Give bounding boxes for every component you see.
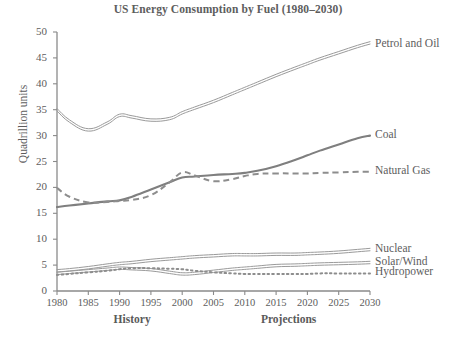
x-tick-2020: 2020 (290, 297, 324, 308)
y-tick-40: 40 (25, 77, 47, 89)
x-tick-2005: 2005 (197, 297, 231, 308)
series-label-coal: Coal (375, 128, 397, 140)
x-tick-1990: 1990 (103, 297, 137, 308)
x-tick-1980: 1980 (40, 297, 74, 308)
period-label-history: History (77, 313, 187, 325)
y-tick-30: 30 (25, 129, 47, 141)
x-tick-2030: 2030 (353, 297, 387, 308)
series-petrol-and-oil (57, 42, 370, 131)
series-label-natural-gas: Natural Gas (375, 164, 430, 176)
series-label-petrol-and-oil: Petrol and Oil (375, 37, 440, 49)
y-tick-20: 20 (25, 180, 47, 192)
series-hydropower (57, 268, 370, 275)
y-tick-5: 5 (25, 258, 47, 270)
series-label-hydropower: Hydropower (375, 265, 433, 277)
y-tick-45: 45 (25, 51, 47, 63)
period-label-projections: Projections (234, 313, 344, 325)
x-tick-2025: 2025 (322, 297, 356, 308)
energy-consumption-chart: US Energy Consumption by Fuel (1980–2030… (0, 0, 456, 342)
x-tick-2000: 2000 (165, 297, 199, 308)
y-tick-10: 10 (25, 232, 47, 244)
x-tick-2010: 2010 (228, 297, 262, 308)
y-tick-25: 25 (25, 155, 47, 167)
y-tick-50: 50 (25, 25, 47, 37)
series-natural-gas (57, 172, 370, 203)
y-tick-0: 0 (25, 284, 47, 296)
x-tick-2015: 2015 (259, 297, 293, 308)
series-coal (57, 136, 370, 207)
series-label-nuclear: Nuclear (375, 242, 411, 254)
x-tick-1985: 1985 (71, 297, 105, 308)
y-tick-35: 35 (25, 103, 47, 115)
y-tick-15: 15 (25, 206, 47, 218)
x-tick-1995: 1995 (134, 297, 168, 308)
